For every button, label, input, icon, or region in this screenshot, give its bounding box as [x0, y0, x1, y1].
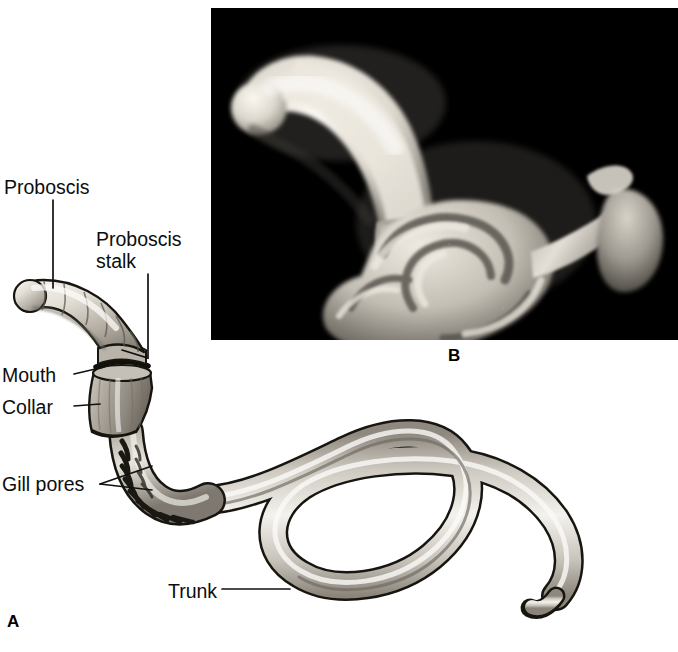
- label-trunk: Trunk: [168, 580, 217, 602]
- label-gill-pores: Gill pores: [2, 473, 84, 495]
- label-proboscis-stalk: Proboscis stalk: [96, 228, 182, 272]
- leader-proboscis-stalk: [122, 274, 148, 358]
- label-proboscis: Proboscis: [4, 176, 90, 198]
- panel-letter-a: A: [7, 612, 19, 632]
- leader-collar: [74, 404, 100, 406]
- label-mouth: Mouth: [2, 364, 56, 386]
- leader-gill-pores-upper: [100, 466, 152, 484]
- leader-mouth: [74, 367, 104, 374]
- figure-container: B: [0, 0, 678, 652]
- leader-gill-pores-lower: [100, 484, 152, 490]
- label-leader-lines: [0, 0, 678, 652]
- label-collar: Collar: [2, 396, 53, 418]
